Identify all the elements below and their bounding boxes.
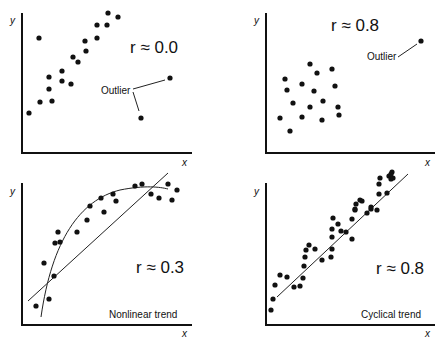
- r-value: r ≈ 0.3: [136, 258, 184, 277]
- data-point: [139, 181, 144, 186]
- data-point: [174, 187, 179, 192]
- r-value: r ≈ 0.8: [376, 259, 424, 278]
- data-point: [329, 226, 334, 231]
- outlier-arrow: [133, 80, 165, 89]
- data-point: [359, 198, 364, 203]
- outlier-arrow: [133, 92, 139, 111]
- data-point: [336, 112, 341, 117]
- data-point: [329, 234, 334, 239]
- data-point: [41, 260, 46, 265]
- data-point: [277, 115, 282, 120]
- data-point: [68, 81, 73, 86]
- panel-bottom-left: y x r ≈ 0.3 Nonlinear trend: [9, 173, 192, 339]
- outlier-arrow: [398, 44, 417, 57]
- outlier-point: [418, 38, 423, 43]
- data-point: [332, 83, 337, 88]
- axes: [22, 183, 192, 325]
- data-point: [307, 104, 312, 109]
- data-point: [299, 81, 304, 86]
- data-point: [270, 296, 275, 301]
- data-point: [364, 210, 369, 215]
- data-point: [352, 206, 357, 211]
- data-point: [268, 307, 273, 312]
- data-points: [33, 181, 179, 308]
- x-axis-label: x: [424, 157, 431, 168]
- data-point: [52, 240, 57, 245]
- y-axis-label: y: [9, 186, 16, 197]
- panel-bottom-right: y x r ≈ 0.8 Cyclical trend: [253, 169, 435, 339]
- data-points: [26, 10, 172, 120]
- data-point: [83, 48, 88, 53]
- data-point: [94, 35, 99, 40]
- data-point: [46, 74, 51, 79]
- data-point: [290, 100, 295, 105]
- data-point: [33, 303, 38, 308]
- panel-top-right: y x r ≈ 0.8 Outlier: [253, 13, 435, 168]
- outlier-label: Outlier: [367, 51, 397, 62]
- data-point: [312, 246, 317, 251]
- data-point: [46, 296, 51, 301]
- data-point: [338, 228, 343, 233]
- x-axis-label: x: [181, 157, 188, 168]
- trend-label: Cyclical trend: [361, 309, 421, 320]
- x-axis-label: x: [181, 328, 188, 339]
- outlier-point: [138, 115, 143, 120]
- data-point: [51, 273, 56, 278]
- data-point: [377, 175, 382, 180]
- y-axis-label: y: [253, 15, 260, 26]
- data-point: [349, 236, 354, 241]
- data-point: [368, 204, 373, 209]
- data-points: [268, 169, 395, 312]
- data-point: [115, 14, 120, 19]
- data-point: [320, 98, 325, 103]
- data-point: [272, 282, 277, 287]
- data-point: [314, 70, 319, 75]
- data-point: [148, 191, 153, 196]
- data-point: [374, 207, 379, 212]
- data-point: [303, 247, 308, 252]
- data-point: [284, 274, 289, 279]
- data-point: [353, 201, 358, 206]
- nonlinear-fit-curve: [41, 187, 168, 317]
- data-point: [55, 229, 60, 234]
- data-point: [75, 59, 80, 64]
- data-point: [132, 183, 137, 188]
- data-point: [376, 191, 381, 196]
- data-point: [59, 78, 64, 83]
- outlier-label: Outlier: [101, 85, 131, 96]
- data-point: [57, 239, 62, 244]
- data-point: [384, 190, 389, 195]
- data-point: [59, 68, 64, 73]
- panel-top-left: y x r ≈ 0.0 Outlier: [9, 10, 192, 168]
- data-point: [307, 61, 312, 66]
- data-point: [329, 246, 334, 251]
- r-value: r ≈ 0.8: [331, 16, 379, 35]
- r-value: r ≈ 0.0: [130, 38, 178, 57]
- data-point: [297, 283, 302, 288]
- data-point: [87, 203, 92, 208]
- data-point: [319, 117, 324, 122]
- data-point: [319, 257, 324, 262]
- data-point: [165, 181, 170, 186]
- data-point: [302, 254, 307, 259]
- data-point: [282, 76, 287, 81]
- trend-label: Nonlinear trend: [109, 309, 177, 320]
- data-point: [299, 114, 304, 119]
- y-axis-label: y: [9, 15, 16, 26]
- data-point: [26, 110, 31, 115]
- data-point: [277, 272, 282, 277]
- data-point: [105, 10, 110, 15]
- x-axis-label: x: [424, 328, 431, 339]
- scatter-diagram: y x r ≈ 0.0 Outlier y x r ≈ 0.8 Outlier …: [0, 0, 447, 345]
- data-point: [101, 209, 106, 214]
- data-point: [291, 284, 296, 289]
- y-axis-label: y: [253, 186, 260, 197]
- data-point: [335, 221, 340, 226]
- data-point: [330, 215, 335, 220]
- data-point: [388, 171, 393, 176]
- data-point: [37, 99, 42, 104]
- data-point: [349, 216, 354, 221]
- data-point: [343, 229, 348, 234]
- data-point: [156, 195, 161, 200]
- data-point: [284, 87, 289, 92]
